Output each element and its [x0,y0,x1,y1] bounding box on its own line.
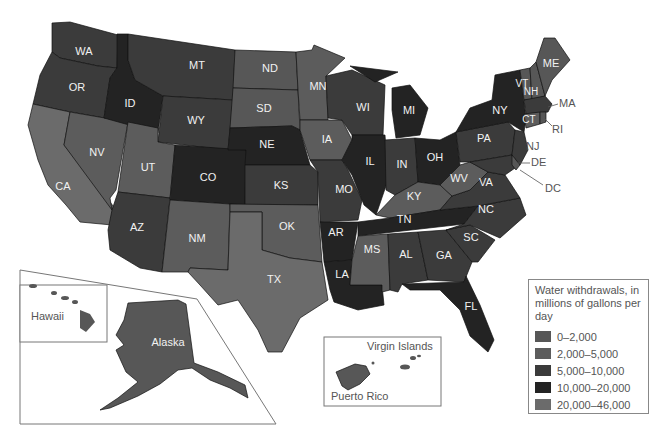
state-RI[interactable] [540,112,546,124]
label-IA: IA [322,133,333,145]
label-NY: NY [492,104,508,116]
label-GA: GA [436,249,453,261]
label-NC: NC [478,203,494,215]
label-LA: LA [335,268,349,280]
label-MI: MI [403,104,415,116]
label-PA: PA [477,132,492,144]
label-TX: TX [267,273,282,285]
legend-label: 20,000–46,000 [557,399,630,411]
label-MO: MO [335,183,353,195]
legend-item: 20,000–46,000 [535,397,642,412]
label-OR: OR [69,81,86,93]
legend-swatch [535,331,551,342]
legend-label: 10,000–20,000 [557,382,630,394]
label-MN: MN [309,80,326,92]
label-SD: SD [256,102,271,114]
legend-item: 10,000–20,000 [535,380,642,395]
legend-item: 5,000–10,000 [535,363,642,378]
label-VA: VA [479,176,494,188]
label-FL: FL [465,300,478,312]
alaska-label: Alaska [151,336,185,348]
label-NJ: NJ [526,140,539,152]
label-NE: NE [259,138,274,150]
label-KS: KS [274,179,289,191]
label-WV: WV [450,172,468,184]
legend-title: Water withdrawals, in millions of gallon… [535,284,642,323]
label-MA: MA [559,97,576,109]
label-TN: TN [397,213,412,225]
legend-swatch [535,365,551,376]
label-RI: RI [552,123,563,135]
legend-swatch [535,399,551,410]
legend-swatch [535,348,551,359]
label-ID: ID [125,97,136,109]
label-CO: CO [200,171,217,183]
legend-swatch [535,382,551,393]
label-WA: WA [75,45,93,57]
label-NV: NV [89,146,105,158]
label-MT: MT [189,59,205,71]
label-UT: UT [141,161,156,173]
legend-item: 2,000–5,000 [535,346,642,361]
label-OH: OH [427,151,444,163]
legend-label: 5,000–10,000 [557,365,624,377]
legend-item: 0–2,000 [535,329,642,344]
label-OK: OK [279,220,296,232]
hawaii-label: Hawaii [31,310,64,322]
legend-label: 2,000–5,000 [557,348,618,360]
label-AL: AL [399,248,412,260]
puerto-rico-label: Puerto Rico [331,390,388,402]
label-ND: ND [262,62,278,74]
label-WI: WI [356,101,369,113]
label-WY: WY [187,114,205,126]
label-MS: MS [364,243,381,255]
label-NH: NH [524,86,538,97]
label-CT: CT [522,114,535,125]
label-DC: DC [545,182,561,194]
label-SC: SC [463,231,478,243]
virgin-islands-label: Virgin Islands [367,340,433,352]
label-AZ: AZ [130,221,144,233]
label-IL: IL [365,155,374,167]
legend-label: 0–2,000 [557,331,597,343]
label-CA: CA [55,180,71,192]
label-ME: ME [543,57,560,69]
label-AR: AR [328,226,343,238]
label-KY: KY [407,190,422,202]
label-DE: DE [531,156,546,168]
label-NM: NM [188,232,205,244]
legend: Water withdrawals, in millions of gallon… [528,279,649,414]
label-IN: IN [397,158,408,170]
